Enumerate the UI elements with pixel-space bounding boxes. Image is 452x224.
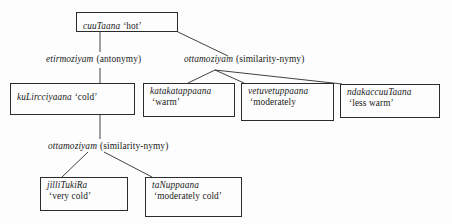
edge-label-similarity-bottom-relation: ottamoziyam [48, 141, 97, 151]
node-root[interactable]: cuuTaana‘hot’ [76, 12, 178, 32]
node-less-warm[interactable]: ndakaccuuTaana ‘less warm’ [340, 84, 440, 118]
edge-label-similarity-top: ottamoziyam(similarity-nymy) [184, 54, 304, 64]
node-cold-term: kuLircciyaana [17, 92, 72, 102]
edge-root-to-similarity [178, 32, 228, 56]
edge-label-similarity-top-relation: ottamoziyam [184, 54, 233, 64]
edge-similarity-to-moderately-warm [215, 70, 244, 83]
edge-label-similarity-bottom-gloss: (similarity-nymy) [100, 141, 168, 151]
node-moderately-warm[interactable]: vetuvetuppaana ‘moderately [241, 83, 334, 121]
edge-label-similarity-bottom: ottamoziyam(similarity-nymy) [48, 141, 168, 151]
node-moderately-warm-gloss: ‘moderately [250, 97, 328, 108]
node-moderately-cold-term: taNuppaana [152, 180, 236, 191]
node-moderately-cold-gloss: ‘moderately cold’ [154, 191, 236, 202]
edge-label-antonymy-gloss: (antonymy) [96, 54, 141, 64]
node-root-gloss: ‘hot’ [123, 21, 142, 31]
edge-label-antonymy-relation: etirmoziyam [46, 54, 93, 64]
edge-similarity2-to-moderately-cold [104, 152, 152, 177]
node-cold[interactable]: kuLircciyaana‘cold’ [10, 83, 135, 115]
node-moderately-warm-term: vetuvetuppaana [248, 86, 328, 97]
edge-similarity2-to-very-cold [62, 152, 88, 177]
node-warm-gloss: ‘warm’ [152, 97, 229, 108]
node-very-cold[interactable]: jilliTukiRa ‘very cold’ [40, 177, 128, 211]
node-cold-gloss: ‘cold’ [75, 92, 98, 102]
node-very-cold-gloss: ‘very cold’ [49, 191, 122, 202]
node-less-warm-gloss: ‘less warm’ [349, 98, 434, 109]
node-warm[interactable]: katakatappaana ‘warm’ [143, 83, 235, 117]
edge-label-antonymy: etirmoziyam(antonymy) [46, 54, 141, 64]
node-moderately-cold[interactable]: taNuppaana ‘moderately cold’ [145, 177, 242, 217]
edge-similarity-to-warm [188, 70, 215, 83]
node-root-term: cuuTaana [83, 21, 120, 31]
node-warm-term: katakatappaana [150, 86, 229, 97]
diagram-canvas: cuuTaana‘hot’ etirmoziyam(antonymy) otta… [0, 0, 452, 224]
edge-label-similarity-top-gloss: (similarity-nymy) [236, 54, 304, 64]
edge-similarity-to-less-warm [215, 70, 342, 84]
node-less-warm-term: ndakaccuuTaana [347, 87, 434, 98]
node-very-cold-term: jilliTukiRa [47, 180, 122, 191]
